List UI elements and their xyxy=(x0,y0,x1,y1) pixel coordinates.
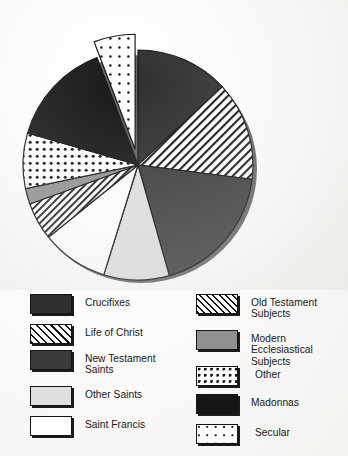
legend-swatch xyxy=(196,330,238,350)
legend-swatch xyxy=(30,294,72,314)
legend-swatch xyxy=(196,394,238,414)
legend-swatch xyxy=(30,386,72,406)
legend-item-label: Crucifixes xyxy=(85,294,130,308)
legend-item[interactable]: Other Saints xyxy=(30,386,142,406)
legend-swatch xyxy=(30,416,72,436)
chart-legend: CrucifixesLife of ChristNew Testament Sa… xyxy=(0,292,348,456)
legend-item-label: New Testament Saints xyxy=(85,350,156,376)
legend-item[interactable]: New Testament Saints xyxy=(30,350,156,376)
legend-item[interactable]: Modern Ecclesiastical Subjects xyxy=(196,330,348,367)
legend-item-label: Modern Ecclesiastical Subjects xyxy=(251,330,348,367)
legend-swatch xyxy=(196,294,238,314)
legend-item[interactable]: Old Testament Subjects xyxy=(196,294,317,320)
pie-chart-svg xyxy=(0,0,348,290)
legend-item-label: Old Testament Subjects xyxy=(251,294,317,320)
legend-item[interactable]: Saint Francis xyxy=(30,416,145,436)
legend-item[interactable]: Crucifixes xyxy=(30,294,130,314)
legend-item-label: Secular xyxy=(255,424,290,438)
legend-item-label: Madonnas xyxy=(251,394,299,408)
pie-chart xyxy=(0,0,348,290)
legend-item-label: Other Saints xyxy=(85,386,142,400)
legend-item-label: Other xyxy=(255,366,281,380)
legend-item[interactable]: Life of Christ xyxy=(30,324,143,344)
legend-item-label: Saint Francis xyxy=(85,416,145,430)
legend-item[interactable]: Other xyxy=(196,366,281,386)
legend-item-label: Life of Christ xyxy=(85,324,143,338)
legend-swatch xyxy=(30,324,72,344)
legend-swatch xyxy=(196,424,238,444)
scan-vignette xyxy=(0,0,348,290)
legend-swatch xyxy=(30,350,72,370)
legend-item[interactable]: Madonnas xyxy=(196,394,299,414)
legend-swatch xyxy=(196,366,238,386)
legend-item[interactable]: Secular xyxy=(196,424,290,444)
page-root: CrucifixesLife of ChristNew Testament Sa… xyxy=(0,0,348,456)
